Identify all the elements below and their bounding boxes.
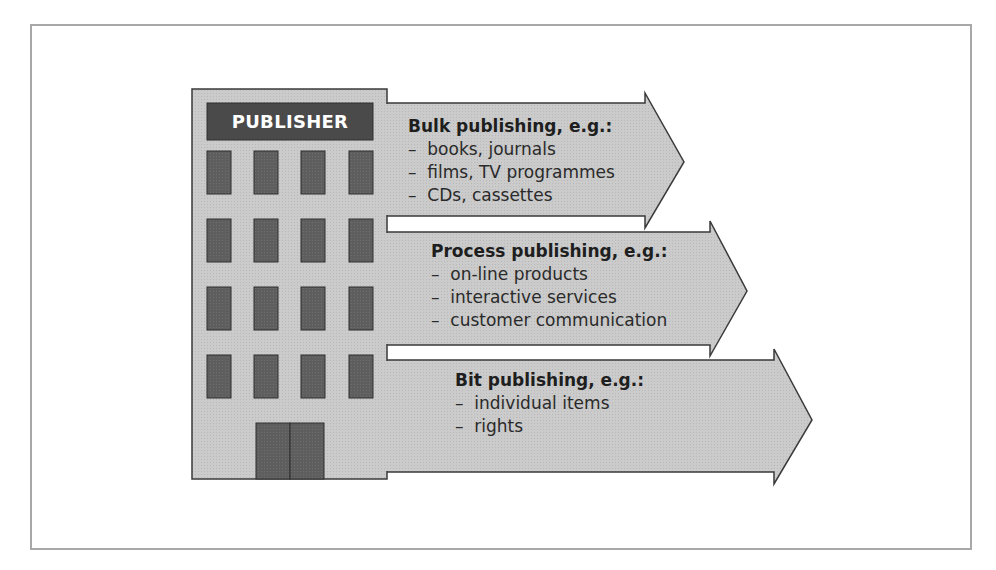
bit-item: individual items [455, 392, 644, 415]
bulk-publishing-title: Bulk publishing, e.g.: [408, 115, 615, 138]
process-publishing-title: Process publishing, e.g.: [431, 240, 668, 263]
bulk-item: films, TV programmes [408, 161, 615, 184]
publisher-sign-label: PUBLISHER [207, 103, 373, 140]
bulk-item: books, journals [408, 138, 615, 161]
process-item: on-line products [431, 263, 668, 286]
process-publishing-label: Process publishing, e.g.: on-line produc… [431, 240, 668, 332]
bit-item: rights [455, 415, 644, 438]
process-item: interactive services [431, 286, 668, 309]
bit-publishing-title: Bit publishing, e.g.: [455, 369, 644, 392]
building-door [256, 423, 324, 479]
process-item: customer communication [431, 309, 668, 332]
bulk-item: CDs, cassettes [408, 184, 615, 207]
bit-publishing-label: Bit publishing, e.g.: individual items r… [455, 369, 644, 438]
publisher-building [192, 89, 390, 479]
bulk-publishing-label: Bulk publishing, e.g.: books, journals f… [408, 115, 615, 207]
